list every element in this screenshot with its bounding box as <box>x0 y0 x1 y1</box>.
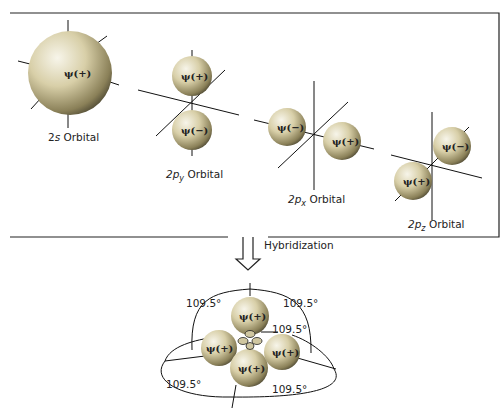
angle-label: 109.5° <box>272 383 307 395</box>
hybridization-diagram: ψ(+) 2s Orbital ψ(+) ψ(−) 2py Orbital ψ(… <box>0 0 503 410</box>
psi-label: ψ(+) <box>181 71 208 82</box>
psi-label: ψ(−) <box>277 122 304 133</box>
psi-label: ψ(+) <box>238 363 265 374</box>
orbital-label-2pz: 2pz Orbital <box>408 218 465 233</box>
orbital-label-2py: 2py Orbital <box>166 168 223 183</box>
psi-label: ψ(−) <box>181 125 208 136</box>
psi-label: ψ(−) <box>442 141 469 152</box>
psi-label: ψ(+) <box>272 347 299 358</box>
orbital-2s: ψ(+) 2s Orbital <box>18 20 119 143</box>
orbital-label-2s: 2s Orbital <box>48 131 99 143</box>
orbital-2py: ψ(+) ψ(−) 2py Orbital <box>138 50 239 183</box>
angle-label: 109.5° <box>186 297 221 309</box>
hybridization-arrow-icon <box>236 237 260 270</box>
orbital-label-2px: 2px Orbital <box>288 193 345 208</box>
angle-label: 109.5° <box>166 378 201 390</box>
psi-label: ψ(+) <box>332 136 359 147</box>
angle-label: 109.5° <box>272 323 307 335</box>
psi-label: ψ(+) <box>239 311 266 322</box>
orbital-2pz: ψ(−) ψ(+) 2pz Orbital <box>391 112 482 233</box>
psi-label: ψ(+) <box>64 68 91 79</box>
psi-label: ψ(+) <box>403 176 430 187</box>
orbital-2px: ψ(−) ψ(+) 2px Orbital <box>254 81 374 208</box>
angle-label: 109.5° <box>283 297 318 309</box>
sp3-hybrid-orbitals: ψ(+) ψ(+) ψ(+) ψ(+) 109.5° 109.5° 109.5°… <box>161 283 336 408</box>
arrow-label: Hybridization <box>264 239 334 251</box>
psi-label: ψ(+) <box>206 343 233 354</box>
